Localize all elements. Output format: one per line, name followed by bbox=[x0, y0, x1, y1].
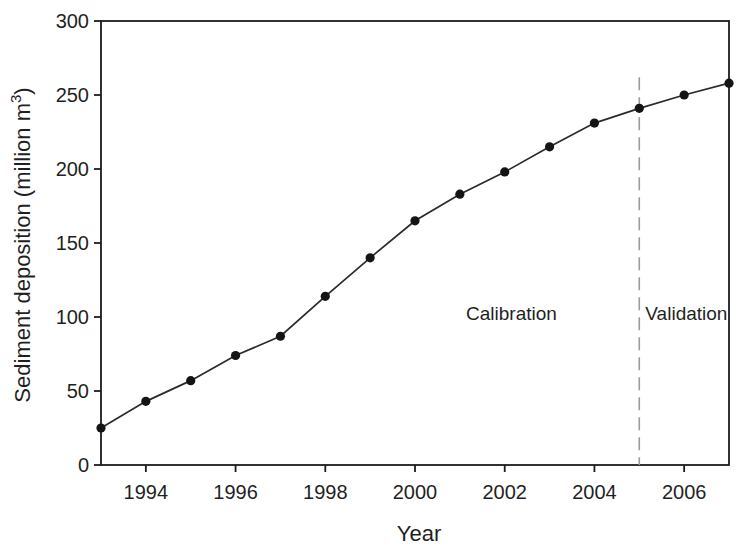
y-tick-label: 250 bbox=[56, 84, 89, 106]
y-tick-label: 300 bbox=[56, 10, 89, 32]
data-point bbox=[366, 253, 375, 262]
x-tick-label: 2006 bbox=[662, 481, 707, 503]
plot-frame bbox=[101, 21, 729, 465]
sediment-deposition-figure: 050100150200250300 199419961998200020022… bbox=[0, 0, 738, 552]
data-point bbox=[410, 216, 419, 225]
data-point bbox=[321, 292, 330, 301]
x-tick-label: 2000 bbox=[393, 481, 438, 503]
validation-label: Validation bbox=[645, 303, 727, 324]
plot-border bbox=[101, 21, 729, 465]
data-point bbox=[500, 167, 509, 176]
y-tick-label: 200 bbox=[56, 158, 89, 180]
x-tick-label: 1994 bbox=[124, 481, 169, 503]
y-tick-label: 150 bbox=[56, 232, 89, 254]
data-series bbox=[96, 79, 733, 433]
data-point bbox=[276, 332, 285, 341]
y-tick-label: 100 bbox=[56, 306, 89, 328]
data-point bbox=[455, 190, 464, 199]
x-tick-label: 2002 bbox=[482, 481, 527, 503]
line-chart: 050100150200250300 199419961998200020022… bbox=[0, 0, 738, 552]
data-point bbox=[590, 119, 599, 128]
x-tick-label: 1996 bbox=[213, 481, 258, 503]
y-axis: 050100150200250300 bbox=[56, 10, 101, 476]
series-line bbox=[101, 83, 729, 428]
y-tick-label: 0 bbox=[78, 454, 89, 476]
x-axis: 1994199619982000200220042006 bbox=[124, 465, 707, 503]
x-tick-label: 1998 bbox=[303, 481, 348, 503]
annotations: Calibration Validation bbox=[466, 303, 727, 324]
data-point bbox=[680, 90, 689, 99]
data-point bbox=[545, 142, 554, 151]
data-point bbox=[231, 351, 240, 360]
data-point bbox=[96, 423, 105, 432]
calibration-label: Calibration bbox=[466, 303, 557, 324]
data-point bbox=[635, 104, 644, 113]
y-axis-title: Sediment deposition (million m3) bbox=[7, 87, 35, 402]
data-point bbox=[186, 376, 195, 385]
data-point bbox=[724, 79, 733, 88]
data-point bbox=[141, 397, 150, 406]
x-axis-title: Year bbox=[397, 521, 441, 546]
y-tick-label: 50 bbox=[67, 380, 89, 402]
x-tick-label: 2004 bbox=[572, 481, 617, 503]
